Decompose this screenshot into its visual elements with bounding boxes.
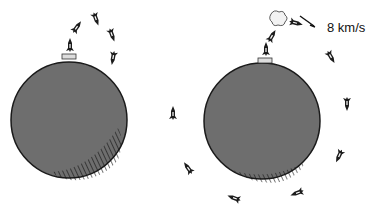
right-planet [204,58,320,183]
orbit-illustration [0,0,377,217]
rocket-icon [70,19,85,35]
launch-pad-right [258,58,272,63]
rocket-icon [108,50,118,65]
rocket-icon [288,17,304,28]
rocket-icon [289,187,305,199]
rocket-icon [324,49,338,65]
speed-label: 8 km/s [327,20,365,35]
rocket-icon [181,160,196,176]
rocket-icon [169,106,177,120]
launch-pad-left [62,54,76,59]
exhaust-cloud [270,11,287,26]
rocket-icon [265,28,279,44]
rocket-icon [332,148,345,164]
rocket-icon [343,97,351,111]
rocket-icon [226,192,242,204]
speed-lines [300,16,315,27]
rocket-icon [66,38,74,52]
rocket-icon [90,11,102,27]
rocket-icon [262,42,270,56]
left-planet [11,54,127,180]
rocket-icon [106,27,118,43]
